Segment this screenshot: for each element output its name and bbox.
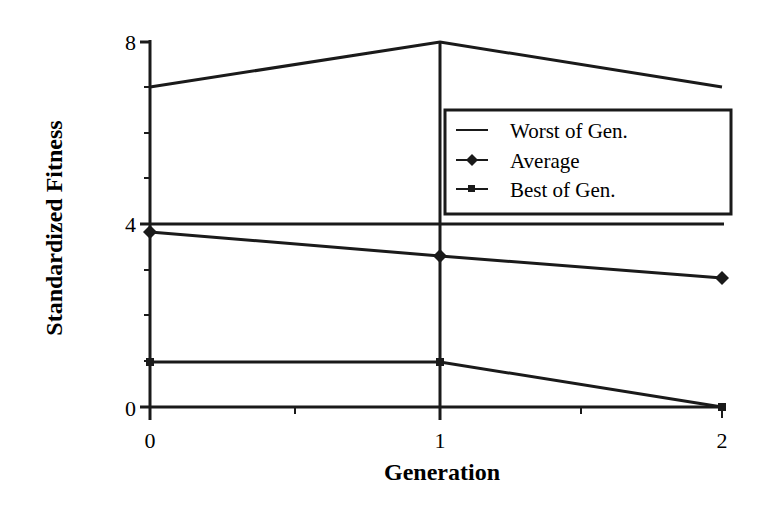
y-tick-labels: 8 4 0 bbox=[125, 30, 136, 421]
legend-best: Best of Gen. bbox=[510, 178, 616, 202]
x-tick-labels: 0 1 2 bbox=[145, 428, 728, 453]
legend: Worst of Gen. Average Best of Gen. bbox=[445, 110, 731, 214]
y-tick-8: 8 bbox=[125, 30, 136, 55]
legend-average: Average bbox=[510, 149, 580, 173]
diamond-marker bbox=[433, 249, 447, 263]
series-average bbox=[143, 225, 729, 285]
series-best bbox=[146, 358, 726, 411]
diamond-marker bbox=[143, 225, 157, 239]
diamond-marker bbox=[715, 271, 729, 285]
legend-worst: Worst of Gen. bbox=[510, 119, 628, 143]
legend-square-icon bbox=[468, 185, 475, 192]
y-tick-0: 0 bbox=[125, 396, 136, 421]
series-worst bbox=[150, 42, 722, 87]
square-marker bbox=[718, 403, 726, 411]
y-axis-title: Standardized Fitness bbox=[41, 120, 67, 335]
square-marker bbox=[436, 358, 444, 366]
x-axis-title: Generation bbox=[384, 459, 500, 485]
y-tick-4: 4 bbox=[125, 212, 136, 237]
chart: 8 4 0 0 1 2 Generation Standardized Fitn… bbox=[0, 0, 767, 519]
x-tick-1: 1 bbox=[435, 428, 446, 453]
x-tick-0: 0 bbox=[145, 428, 156, 453]
x-tick-2: 2 bbox=[717, 428, 728, 453]
square-marker bbox=[146, 358, 154, 366]
